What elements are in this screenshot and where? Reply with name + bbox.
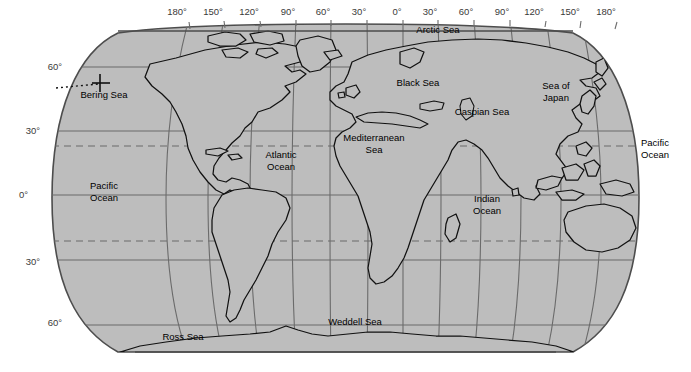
- lat-label-30s: 30°: [26, 256, 41, 267]
- label-indian-ocean-line1: Indian: [474, 193, 500, 204]
- label-ross-sea: Ross Sea: [162, 331, 204, 342]
- arctic-island-1: [208, 32, 246, 46]
- lon-label-180e: 180°: [596, 6, 616, 17]
- lon-label-90e: 90°: [495, 6, 510, 17]
- lat-label-30n: 30°: [26, 125, 41, 136]
- lat-label-0: 0°: [19, 189, 28, 200]
- label-mediterranean-sea-line1: Mediterranean: [343, 132, 404, 143]
- label-indian-ocean-line2: Ocean: [473, 205, 501, 216]
- label-sea-of-japan-line1: Sea of: [542, 80, 570, 91]
- label-mediterranean-sea-line2: Sea: [366, 144, 384, 155]
- world-ocean-map: 180° 150° 120° 90° 60° 30° 0° 30° 60° 90…: [0, 0, 691, 372]
- lon-label-30w: 30°: [352, 6, 367, 17]
- label-pacific-ocean-west-line1: Pacific: [90, 180, 118, 191]
- lon-label-120w: 120°: [239, 6, 259, 17]
- lon-label-120e: 120°: [524, 6, 544, 17]
- label-sea-of-japan-line2: Japan: [543, 92, 569, 103]
- lon-label-60w: 60°: [316, 6, 331, 17]
- ireland: [338, 92, 345, 98]
- lon-label-150e: 150°: [560, 6, 580, 17]
- label-arctic-sea: Arctic Sea: [416, 24, 460, 35]
- lon-label-180w: 180°: [167, 6, 187, 17]
- label-caspian-sea: Caspian Sea: [455, 106, 510, 117]
- label-pacific-ocean-west-line2: Ocean: [90, 192, 118, 203]
- lon-label-0: 0°: [392, 6, 401, 17]
- lon-label-90w: 90°: [281, 6, 296, 17]
- sri-lanka: [512, 188, 519, 196]
- label-pacific-ocean-east-line2: Ocean: [641, 149, 669, 160]
- label-bering-sea: Bering Sea: [80, 89, 128, 100]
- label-atlantic-ocean-line2: Ocean: [267, 161, 295, 172]
- lat-label-60n: 60°: [48, 61, 63, 72]
- label-weddell-sea: Weddell Sea: [328, 316, 382, 327]
- label-black-sea: Black Sea: [397, 77, 440, 88]
- lon-label-30e: 30°: [423, 6, 438, 17]
- map-svg: 180° 150° 120° 90° 60° 30° 0° 30° 60° 90…: [0, 0, 691, 372]
- lat-label-60s: 60°: [48, 317, 63, 328]
- lon-label-150w: 150°: [203, 6, 223, 17]
- label-atlantic-ocean-line1: Atlantic: [265, 149, 296, 160]
- lon-label-60e: 60°: [459, 6, 474, 17]
- label-pacific-ocean-east-line1: Pacific: [641, 137, 669, 148]
